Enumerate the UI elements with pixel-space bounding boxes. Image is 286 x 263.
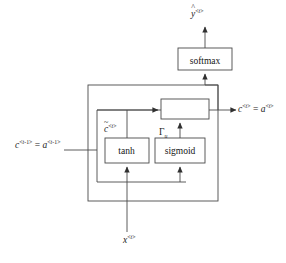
softmax-box-label: softmax: [182, 56, 228, 66]
gru-diagram-svg: [0, 0, 286, 263]
label-y-hat: ^y<t>: [191, 9, 204, 19]
label-c-prev-input: c<t-1> = a<t-1>: [15, 140, 60, 150]
label-c-out-output: c<t> = a<t>: [238, 104, 274, 114]
combiner-box: [161, 99, 209, 119]
label-x-input: x<t>: [123, 235, 136, 245]
tanh-box-label: tanh: [108, 146, 145, 156]
label-gamma-update-gate: Γu: [159, 127, 167, 137]
figure-canvas: ^y<t> c<t-1> = a<t-1> c<t> = a<t> ~c<t> …: [0, 0, 286, 263]
label-c-tilde: ~c<t>: [104, 124, 117, 134]
sigmoid-box-label: sigmoid: [158, 146, 202, 156]
